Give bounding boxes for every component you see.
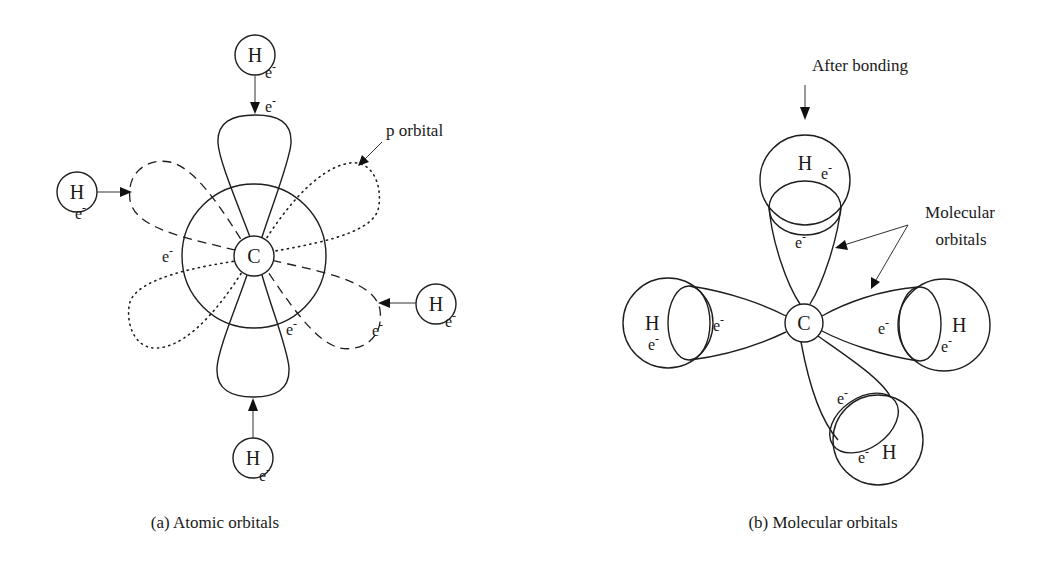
- hydrogen-label: H: [248, 44, 262, 66]
- electron-label: e-: [75, 201, 86, 222]
- electron-label: e-: [648, 332, 659, 353]
- p-orbital-annotation: p orbital: [386, 121, 443, 140]
- electron-label: e-: [286, 317, 297, 338]
- orbital-diagram: C H e- e- H e- H e- H e- e- e- e- p orbi…: [0, 0, 1049, 584]
- molecular-lobe-right: [822, 287, 918, 361]
- electron-label: e-: [713, 313, 724, 334]
- caption-b: (b) Molecular orbitals: [748, 513, 897, 532]
- electron-label: e-: [162, 244, 173, 265]
- electron-label: e-: [259, 463, 270, 484]
- electron-label: e-: [878, 316, 889, 337]
- electron-label: e-: [265, 94, 276, 115]
- arrowhead-icon: [800, 107, 810, 120]
- panel-atomic-orbitals: C H e- e- H e- H e- H e- e- e- e- p orbi…: [57, 35, 456, 532]
- p-orbital-pointer: [364, 142, 382, 160]
- hydrogen-bottom-b: [833, 395, 923, 485]
- hydrogen-label: H: [645, 312, 659, 334]
- molecular-lobe-top: [769, 205, 841, 304]
- carbon-label-a: C: [247, 245, 260, 267]
- hydrogen-label: H: [882, 441, 896, 463]
- electron-label: e-: [372, 318, 383, 339]
- hydrogen-label: H: [798, 152, 812, 174]
- molecular-orbitals-annotation-line1: Molecular: [925, 203, 995, 222]
- after-bonding-annotation: After bonding: [812, 56, 908, 75]
- panel-molecular-orbitals: After bonding H e- e- H e- e- H e- e- H …: [623, 56, 995, 532]
- carbon-label-b: C: [797, 312, 810, 334]
- dotted-lobe-upper-right: [258, 163, 379, 254]
- dashed-lobe-upper-left: [130, 161, 250, 254]
- electron-label: e-: [265, 60, 276, 81]
- overlap-ellipse-top: [769, 181, 841, 235]
- arrowhead-icon: [835, 240, 848, 250]
- hydrogen-label: H: [429, 293, 443, 315]
- electron-label: e-: [941, 334, 952, 355]
- hydrogen-label: H: [246, 447, 260, 469]
- molecular-orbitals-annotation-line2: orbitals: [936, 230, 987, 249]
- dotted-lobe-lower-left: [129, 259, 250, 348]
- arrowhead-icon: [871, 277, 880, 289]
- electron-label: e-: [858, 445, 869, 466]
- hydrogen-right-b: [898, 279, 990, 371]
- hydrogen-label: H: [70, 181, 84, 203]
- electron-label: e-: [837, 386, 848, 407]
- arrowhead-icon: [250, 102, 260, 114]
- electron-label: e-: [445, 309, 456, 330]
- electron-label: e-: [821, 161, 832, 182]
- arrowhead-icon: [248, 398, 258, 411]
- electron-label: e-: [795, 230, 806, 251]
- dashed-lobe-lower-right: [258, 257, 380, 349]
- hydrogen-top-b: [760, 135, 850, 225]
- overlap-ellipse-left: [668, 286, 710, 360]
- hydrogen-label: H: [952, 314, 966, 336]
- caption-a: (a) Atomic orbitals: [151, 513, 279, 532]
